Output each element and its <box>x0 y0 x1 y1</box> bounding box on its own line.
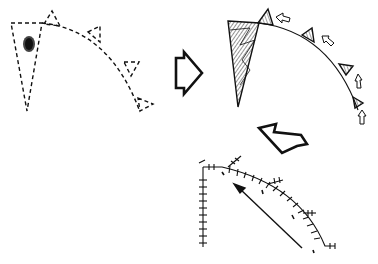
growth-arrows <box>276 13 366 124</box>
dashed-tooth-3 <box>124 62 139 76</box>
dashed-wedge <box>11 23 42 111</box>
hatched-tooth-3 <box>339 64 353 75</box>
small-arrow-icon-4 <box>358 110 366 124</box>
hatched-tooth-1 <box>258 9 273 25</box>
stage-1-dashed-sector <box>11 11 153 112</box>
dashed-tooth-1 <box>44 11 60 26</box>
ticked-curve <box>203 167 335 246</box>
hatched-tooth-4 <box>353 97 363 108</box>
small-arrow-icon-1 <box>276 13 290 23</box>
curve-ticks <box>209 164 335 249</box>
branch-ticks <box>199 156 316 216</box>
small-arrow-icon-3 <box>355 74 362 88</box>
dashed-arc <box>42 23 140 112</box>
dashed-tooth-4 <box>138 98 153 111</box>
arrow-right-icon <box>176 52 202 94</box>
stage-1-blob <box>23 36 35 52</box>
stage-3-ticked-curve <box>199 156 335 253</box>
hatched-wedge <box>228 21 259 107</box>
small-arrow-icon-2 <box>322 36 334 46</box>
stage-2-hatched-sector <box>228 9 363 110</box>
diagram-canvas <box>0 0 378 264</box>
arrow-down-left-icon <box>259 124 307 153</box>
